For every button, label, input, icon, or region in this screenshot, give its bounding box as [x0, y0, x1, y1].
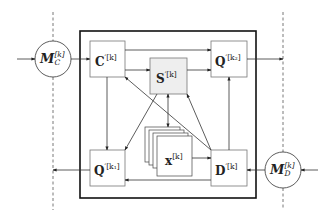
- label-q2: Q′[k₂]: [215, 53, 241, 69]
- label-d: D′[k]: [215, 162, 238, 178]
- label-c: C′[k]: [95, 53, 117, 69]
- label-x: x[k]: [165, 152, 183, 168]
- diagram-canvas: [0, 0, 336, 223]
- label-s: S′[k]: [156, 70, 177, 86]
- label-q1: Q′[k₁]: [94, 162, 120, 178]
- label-md: M[k]D: [270, 161, 295, 178]
- label-mc: M[k]C: [40, 50, 65, 67]
